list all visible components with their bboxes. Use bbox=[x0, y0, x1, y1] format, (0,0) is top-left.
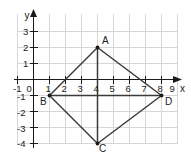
point-b bbox=[48, 94, 52, 98]
x-tick-label-7: 7 bbox=[142, 83, 147, 94]
y-tick-label-2: 2 bbox=[23, 42, 28, 53]
x-tick-label-9: 9 bbox=[170, 83, 175, 94]
origin-label: 0 bbox=[27, 83, 32, 94]
coordinate-plane-figure: 1 2 3 4 5 6 7 8 9 -1 0 3 2 1 -1 -2 -3 -4… bbox=[0, 0, 191, 154]
side-ab bbox=[50, 48, 98, 96]
x-tick-label-5: 5 bbox=[110, 83, 115, 94]
axes bbox=[14, 16, 174, 148]
y-tick-label-neg3: -3 bbox=[17, 123, 25, 134]
x-axis-label: x bbox=[180, 83, 185, 94]
side-bc bbox=[50, 96, 98, 144]
x-tick-label-4: 4 bbox=[94, 83, 99, 94]
y-tick-label-3: 3 bbox=[23, 26, 28, 37]
x-tick-label-6: 6 bbox=[126, 83, 131, 94]
x-tick-label-8: 8 bbox=[158, 83, 163, 94]
x-tick-label-3: 3 bbox=[78, 83, 83, 94]
tick-marks bbox=[18, 32, 162, 144]
vertex-label-d: D bbox=[165, 96, 172, 107]
x-tick-label-1: 1 bbox=[46, 83, 51, 94]
vertex-label-b: B bbox=[40, 96, 47, 107]
y-tick-label-neg2: -2 bbox=[17, 107, 25, 118]
y-axis-arrowhead bbox=[30, 9, 37, 17]
vertex-label-a: A bbox=[102, 35, 109, 46]
y-tick-label-neg1: -1 bbox=[17, 91, 25, 102]
x-tick-label-2: 2 bbox=[62, 83, 67, 94]
point-d bbox=[160, 94, 164, 98]
point-a bbox=[96, 46, 100, 50]
diagonals bbox=[50, 48, 162, 144]
y-axis-label: y bbox=[25, 10, 30, 21]
vertex-label-c: C bbox=[99, 143, 106, 154]
y-tick-label-neg4: -4 bbox=[17, 138, 25, 149]
y-tick-label-1: 1 bbox=[23, 58, 28, 69]
graph-canvas: 1 2 3 4 5 6 7 8 9 -1 0 3 2 1 -1 -2 -3 -4… bbox=[0, 0, 191, 154]
x-axis-tick-labels: 1 2 3 4 5 6 7 8 9 bbox=[46, 83, 175, 94]
